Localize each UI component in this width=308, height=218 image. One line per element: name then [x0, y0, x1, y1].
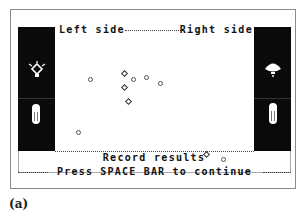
figure-caption: (a) [9, 197, 28, 211]
test-tube-icon [268, 103, 278, 128]
dot-marker [88, 77, 93, 82]
left-side-label: Left side [59, 24, 125, 36]
dot-marker [144, 75, 149, 80]
record-results-label: Record results [11, 152, 297, 164]
header-dotted-divider [125, 30, 183, 31]
dot-marker [131, 77, 136, 82]
continue-prompt[interactable]: Press SPACE BAR to continue [18, 166, 291, 178]
right-side-label: Right side [180, 24, 253, 36]
diamond-marker [121, 84, 128, 91]
light-bulb-radiating-icon [27, 61, 47, 83]
side-header: Left side Right side [59, 24, 253, 36]
diamond-marker [121, 70, 128, 77]
observation-field [55, 37, 254, 151]
right-side-panel [254, 27, 291, 151]
left-side-panel [18, 27, 55, 151]
diamond-marker [125, 98, 132, 105]
dot-marker [76, 130, 81, 135]
test-tube-icon [31, 104, 41, 128]
prompt-dotted-right [263, 172, 291, 173]
panel-divider [254, 98, 291, 99]
press-space-prompt: Press SPACE BAR to continue [18, 166, 291, 178]
experiment-screen: Left side Right side Record results Pres… [10, 9, 296, 189]
shell-lamp-icon [264, 62, 282, 82]
dot-marker [158, 81, 163, 86]
panel-divider [18, 98, 55, 99]
